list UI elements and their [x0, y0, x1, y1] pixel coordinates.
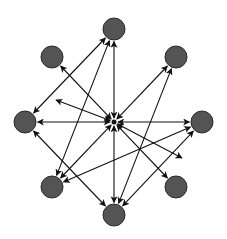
node-left — [14, 111, 36, 133]
node-upper-right — [165, 46, 187, 68]
node-bottom — [103, 204, 125, 226]
node-top — [103, 18, 125, 40]
network-diagram — [0, 0, 227, 239]
node-lower-left — [41, 176, 63, 198]
edge-arrow-hub-lower-right — [117, 125, 168, 178]
node-lower-right — [165, 176, 187, 198]
diagram-svg — [0, 0, 227, 239]
node-right — [191, 111, 213, 133]
edge-arrow-hub-lower-left — [61, 125, 112, 178]
hub-node — [112, 120, 117, 125]
edge-arrow-hub-upper-right — [117, 66, 168, 119]
node-upper-left — [41, 46, 63, 68]
